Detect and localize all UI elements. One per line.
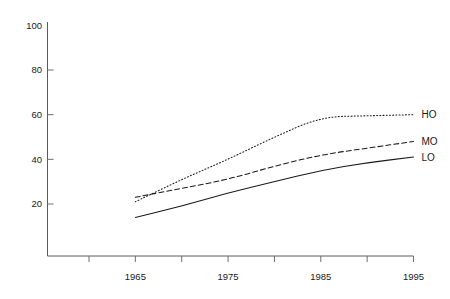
x-axis-ticks — [89, 256, 414, 262]
y-tick-label: 40 — [31, 154, 42, 165]
x-axis-tick-labels: 1965197519851995 — [125, 271, 424, 282]
y-tick-label: 100 — [26, 20, 42, 31]
series-label-lo: LO — [422, 152, 436, 163]
line-chart: 20406080100 1965197519851995 HOMOLO — [0, 0, 450, 299]
y-tick-label: 60 — [31, 109, 42, 120]
y-axis-ticks — [48, 70, 54, 204]
series-end-labels: HOMOLO — [422, 109, 438, 162]
x-tick-label: 1985 — [310, 271, 331, 282]
y-tick-label: 20 — [31, 198, 42, 209]
series-line-lo — [135, 157, 413, 217]
x-tick-label: 1965 — [125, 271, 146, 282]
x-tick-label: 1975 — [218, 271, 239, 282]
series-lines — [135, 115, 413, 218]
y-axis-tick-labels: 20406080100 — [26, 20, 42, 210]
series-label-mo: MO — [422, 136, 438, 147]
series-line-ho — [135, 115, 413, 202]
y-tick-label: 80 — [31, 64, 42, 75]
chart-svg: 20406080100 1965197519851995 HOMOLO — [0, 0, 450, 299]
series-label-ho: HO — [422, 109, 437, 120]
x-tick-label: 1995 — [403, 271, 424, 282]
series-line-mo — [135, 141, 413, 197]
